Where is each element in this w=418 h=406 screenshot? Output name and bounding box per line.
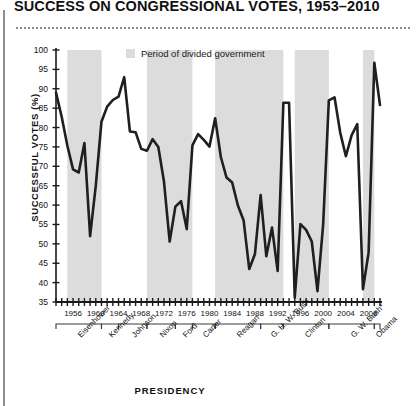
y-tick-label: 40	[26, 279, 48, 287]
y-tick-label: 90	[26, 85, 48, 93]
y-tick-label: 70	[26, 162, 48, 170]
legend-swatch-divided-government	[126, 49, 135, 58]
y-tick-label: 60	[26, 201, 48, 209]
y-tick-label: 95	[26, 65, 48, 73]
chart-page: SUCCESS ON CONGRESSIONAL VOTES, 1953–201…	[0, 0, 418, 406]
y-tick-label: 65	[26, 182, 48, 190]
divided-government-band	[147, 50, 192, 302]
y-tick-label: 35	[26, 298, 48, 306]
x-axis-title: PRESIDENCY	[0, 385, 340, 396]
legend-label: Period of divided government	[141, 48, 265, 59]
y-tick-label: 80	[26, 124, 48, 132]
y-tick-label: 55	[26, 220, 48, 228]
y-tick-label: 100	[26, 46, 48, 54]
line-chart	[0, 0, 418, 406]
y-tick-label: 50	[26, 240, 48, 248]
plot-area: SUCCESSFUL VOTES (%) PRESIDENCY Period o…	[0, 0, 418, 406]
y-axis-title: SUCCESSFUL VOTES (%)	[29, 78, 40, 238]
legend: Period of divided government	[126, 48, 265, 59]
divided-government-band	[295, 50, 329, 302]
y-tick-label: 85	[26, 104, 48, 112]
y-tick-label: 75	[26, 143, 48, 151]
y-tick-label: 45	[26, 259, 48, 267]
